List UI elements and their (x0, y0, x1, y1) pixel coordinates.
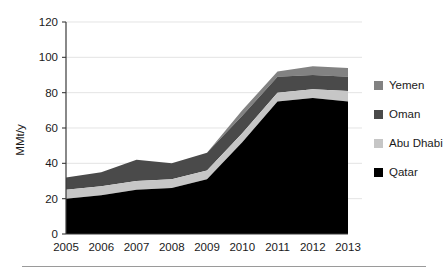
x-tick-labels-group: 200520062007200820092010201120122013 (53, 241, 361, 253)
y-tick-label-0: 0 (52, 228, 58, 240)
legend-swatch-qatar (374, 168, 383, 177)
chart-figure: 020406080100120 200520062007200820092010… (0, 0, 448, 277)
y-tick-label-120: 120 (39, 16, 58, 28)
plot-svg: 020406080100120 200520062007200820092010… (0, 0, 448, 277)
legend-swatch-yemen (374, 81, 383, 90)
y-axis-title: MMt/y (14, 124, 26, 156)
y-tick-label-60: 60 (45, 122, 58, 134)
legend-label-yemen: Yemen (389, 79, 424, 91)
legend-group: YemenOmanAbu DhabiQatar (374, 79, 443, 178)
stacked-area-chart: 020406080100120 200520062007200820092010… (0, 0, 448, 277)
y-tick-label-40: 40 (45, 157, 58, 169)
bottom-divider-rule (22, 266, 426, 267)
x-tick-label-2009: 2009 (194, 241, 220, 253)
legend-label-oman: Oman (389, 108, 420, 120)
x-tick-label-2013: 2013 (335, 241, 361, 253)
x-tick-label-2011: 2011 (265, 241, 290, 253)
x-tick-label-2008: 2008 (159, 241, 185, 253)
legend-label-abu-dhabi: Abu Dhabi (389, 137, 443, 149)
x-tick-label-2006: 2006 (88, 241, 114, 253)
x-tick-label-2012: 2012 (300, 241, 326, 253)
legend-label-qatar: Qatar (389, 166, 418, 178)
y-tick-label-20: 20 (45, 193, 58, 205)
x-tick-label-2007: 2007 (124, 241, 150, 253)
area-series-group (66, 66, 348, 234)
y-tick-labels-group: 020406080100120 (39, 16, 58, 240)
legend-swatch-abu-dhabi (374, 139, 383, 148)
y-tick-label-80: 80 (45, 87, 58, 99)
legend-swatch-oman (374, 110, 383, 119)
y-axis-title-group: MMt/y (14, 124, 26, 156)
y-tick-label-100: 100 (39, 51, 58, 63)
x-tick-label-2010: 2010 (229, 241, 255, 253)
x-tick-label-2005: 2005 (53, 241, 79, 253)
